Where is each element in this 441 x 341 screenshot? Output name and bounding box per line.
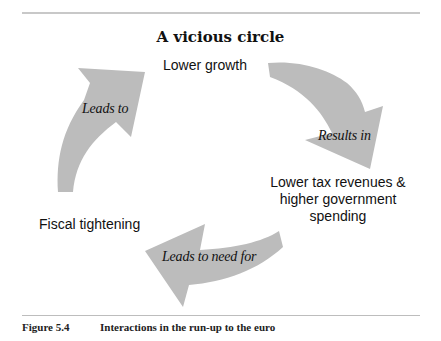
figure-caption: Figure 5.4Interactions in the run-up to … — [22, 321, 275, 333]
node-tax-revenues: Lower tax revenues & higher government s… — [268, 174, 408, 225]
node-lower-growth: Lower growth — [163, 57, 247, 74]
edge-label-leads-to: Leads to — [82, 101, 128, 117]
arrow-fiscal-to-growth — [58, 68, 145, 192]
arrow-growth-to-tax — [268, 62, 383, 169]
node-tax-line-1: Lower tax revenues & — [268, 174, 408, 191]
node-tax-line-2: higher government — [268, 191, 408, 208]
arrow-tax-to-fiscal — [145, 224, 283, 307]
cycle-diagram — [0, 0, 441, 341]
diagram-title: A vicious circle — [0, 28, 441, 46]
node-tax-line-3: spending — [268, 208, 408, 225]
figure-number: Figure 5.4 — [22, 321, 100, 333]
edge-label-results-in: Results in — [318, 128, 371, 144]
bottom-rule — [22, 315, 420, 316]
edge-label-leads-to-need-for: Leads to need for — [162, 249, 256, 265]
node-fiscal-tightening: Fiscal tightening — [39, 216, 140, 233]
figure-caption-text: Interactions in the run-up to the euro — [100, 321, 275, 333]
